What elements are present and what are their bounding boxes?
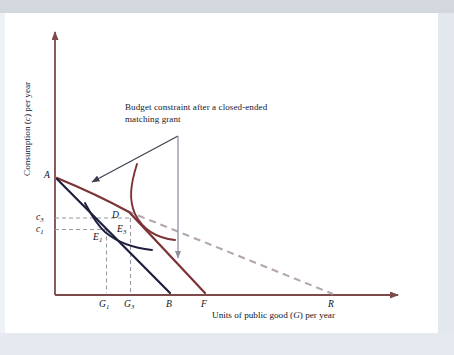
y-axis-title-prefix: Consumption (: [22, 121, 32, 176]
x-tick-label-g3-sub: 3: [131, 303, 134, 310]
diagram-canvas: [0, 0, 454, 355]
x-tick-label-g1: G1: [99, 298, 109, 309]
annotation-line-2: matching grant: [125, 113, 267, 125]
point-label-e3: E3: [117, 223, 126, 234]
x-tick-label-g3-base: G: [124, 298, 131, 309]
x-axis-title: Units of public good (G) per year: [212, 310, 335, 321]
y-axis-title: Consumption (c) per year: [22, 82, 33, 176]
point-label-e3-base: E: [117, 223, 123, 234]
y-value-label-c1-sub: 1: [40, 228, 43, 235]
annotation-arrow-diagonal: [92, 136, 178, 182]
x-tick-label-r: R: [328, 298, 334, 309]
x-axis-title-suffix: ) per year: [300, 310, 335, 320]
figure-page: Consumption (c) per year Units of public…: [0, 0, 454, 355]
x-tick-label-f: F: [201, 298, 207, 309]
x-axis-title-variable: G: [293, 310, 300, 320]
annotation-budget-constraint: Budget constraint after a closed-ended m…: [125, 101, 267, 125]
y-axis-title-suffix: ) per year: [22, 82, 32, 117]
y-axis-title-variable: c: [22, 117, 32, 121]
x-tick-label-g1-base: G: [99, 298, 106, 309]
point-label-e1-sub: 1: [99, 236, 102, 243]
y-value-label-c3-sub: 3: [40, 216, 43, 223]
indifference-curve-3: [131, 164, 175, 240]
point-label-a: A: [44, 169, 50, 180]
point-label-e1: E1: [93, 231, 102, 242]
x-tick-label-g1-sub: 1: [106, 303, 109, 310]
x-tick-label-g3: G3: [124, 298, 134, 309]
point-label-e3-sub: 3: [123, 228, 126, 235]
y-value-label-c1: c1: [36, 223, 44, 234]
x-tick-label-b: B: [166, 298, 172, 309]
y-value-label-c3: c3: [36, 211, 44, 222]
annotation-line-1: Budget constraint after a closed-ended: [125, 101, 267, 113]
point-label-e1-base: E: [93, 231, 99, 242]
x-axis-title-prefix: Units of public good (: [212, 310, 293, 320]
point-label-d: D: [112, 209, 119, 220]
axis-group: [55, 32, 398, 295]
budget-line-initial: [57, 179, 170, 293]
